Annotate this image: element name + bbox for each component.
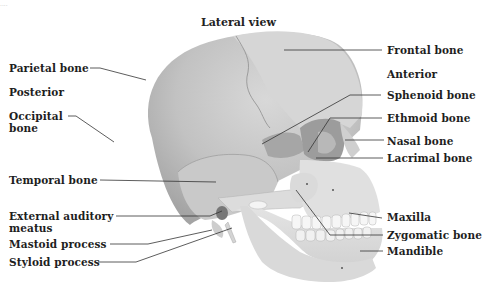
tooth	[345, 228, 353, 239]
tooth	[322, 216, 331, 229]
label-zygomatic-bone: Zygomatic bone	[387, 229, 482, 241]
tooth	[369, 212, 376, 225]
styloid-shape	[225, 222, 236, 243]
label-occipital-bone-line2: bone	[9, 122, 38, 134]
label-posterior: Posterior	[9, 86, 64, 98]
tooth	[302, 216, 311, 229]
diagram-title: Lateral view	[201, 16, 276, 29]
label-nasal-bone: Nasal bone	[387, 135, 453, 147]
foramen-dot	[332, 189, 334, 191]
label-anterior: Anterior	[387, 68, 437, 80]
condyle-highlight	[249, 201, 267, 209]
mastoid-shape	[212, 220, 224, 238]
label-sphenoid-bone: Sphenoid bone	[387, 89, 476, 101]
tooth	[306, 230, 315, 241]
tooth	[351, 213, 359, 226]
tooth	[360, 212, 368, 225]
leader-occipital	[68, 116, 114, 142]
label-occipital-bone-line1: Occipital	[9, 110, 63, 122]
tooth	[342, 214, 350, 227]
tooth	[292, 215, 301, 229]
foramen-dot	[341, 267, 343, 269]
tooth	[354, 228, 362, 239]
leader-mastoid	[110, 230, 212, 244]
label-external-auditory-meatus-line1: External auditory	[9, 210, 113, 222]
label-parietal-bone: Parietal bone	[9, 62, 89, 74]
tooth	[336, 229, 344, 240]
tooth	[316, 230, 325, 241]
label-frontal-bone: Frontal bone	[387, 44, 464, 56]
leader-parietal	[90, 68, 146, 80]
tooth	[332, 215, 341, 228]
skull-lateral-diagram: ....	[0, 0, 490, 290]
tooth	[296, 230, 305, 241]
label-styloid-process: Styloid process	[9, 256, 100, 268]
tooth	[363, 227, 371, 238]
foramen-dot	[306, 183, 308, 185]
label-ethmoid-bone: Ethmoid bone	[387, 112, 470, 124]
label-maxilla: Maxilla	[387, 211, 431, 223]
tooth	[312, 216, 321, 229]
leader-styloid	[98, 228, 232, 262]
label-lacrimal-bone: Lacrimal bone	[387, 152, 473, 164]
label-mandible: Mandible	[387, 245, 443, 257]
label-external-auditory-meatus-line2: meatus	[9, 222, 53, 234]
label-mastoid-process: Mastoid process	[9, 238, 106, 250]
label-temporal-bone: Temporal bone	[9, 174, 98, 186]
